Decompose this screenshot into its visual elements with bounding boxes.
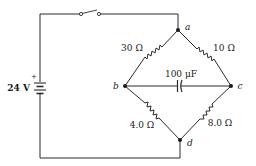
switch[interactable] xyxy=(79,10,100,16)
node-a-dot xyxy=(176,28,180,32)
resistor-10-label: 10 Ω xyxy=(213,43,235,53)
node-c-dot xyxy=(229,84,233,88)
switch-blade xyxy=(82,10,97,14)
switch-terminal-right xyxy=(97,12,100,15)
resistor-30-label: 30 Ω xyxy=(121,43,143,53)
node-d-label: d xyxy=(187,138,193,148)
switch-terminal-left xyxy=(79,12,82,15)
resistor-4-label: 4.0 Ω xyxy=(130,120,155,130)
node-b-label: b xyxy=(113,81,119,91)
node-d-dot xyxy=(178,138,182,142)
resistor-4-ohm: 4.0 Ω xyxy=(125,86,180,140)
circuit-diagram: + 24 V 30 Ω 10 Ω 4.0 Ω 8.0 Ω 100 μF xyxy=(0,0,256,166)
resistor-8-ohm: 8.0 Ω xyxy=(180,86,232,140)
node-b-dot xyxy=(123,84,127,88)
resistor-8-label: 8.0 Ω xyxy=(208,118,233,128)
battery-plus-sign: + xyxy=(31,73,37,81)
node-a-label: a xyxy=(185,22,190,32)
capacitor-100uF: 100 μF xyxy=(125,69,231,92)
battery-voltage-label: 24 V xyxy=(7,83,31,93)
capacitor-label: 100 μF xyxy=(165,69,197,79)
node-c-label: c xyxy=(237,81,242,91)
